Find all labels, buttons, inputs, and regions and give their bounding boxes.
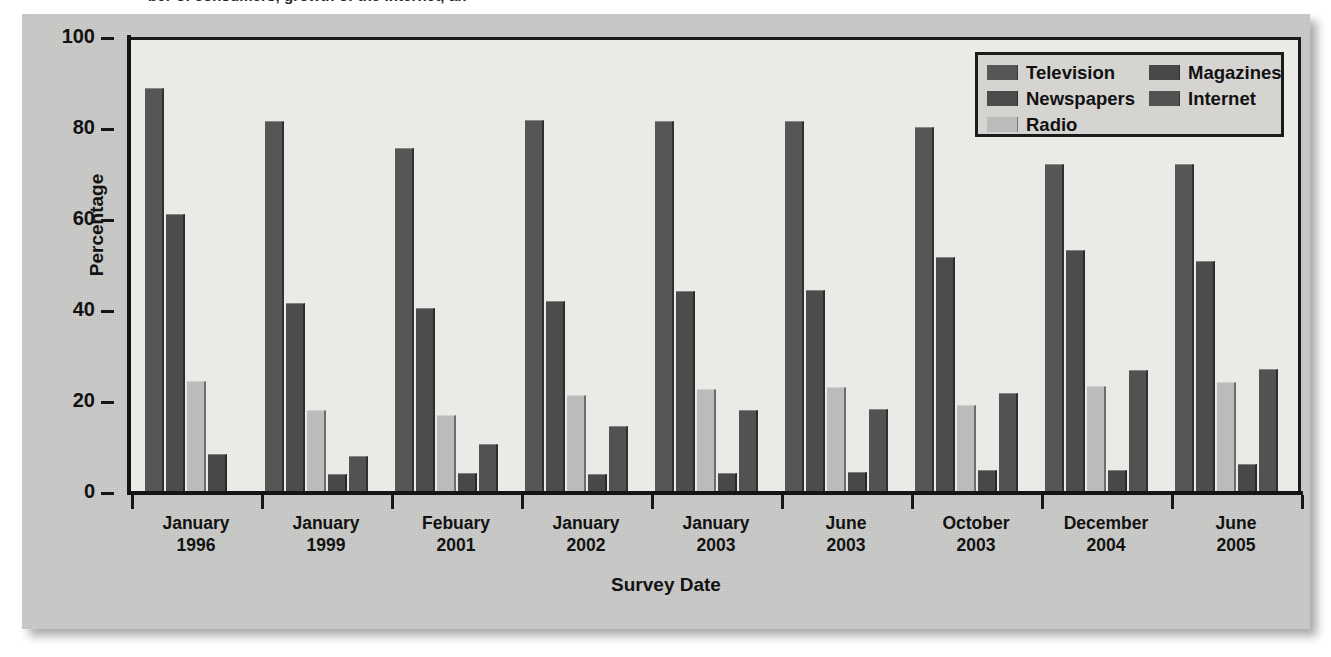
legend-swatch-magazines xyxy=(1149,65,1180,80)
bar-face xyxy=(739,410,758,492)
bar-face xyxy=(349,456,368,492)
bar-television-6 xyxy=(915,127,934,492)
x-axis-title: Survey Date xyxy=(22,574,1310,596)
legend-item-internet: Internet xyxy=(1149,86,1282,111)
bar-television-8 xyxy=(1175,164,1194,492)
bar-internet-7 xyxy=(1129,370,1148,492)
bar-face xyxy=(999,393,1018,492)
bar-radio-4 xyxy=(697,389,716,492)
x-axis-label-line: January xyxy=(121,512,271,534)
bar-radio-3 xyxy=(567,395,586,492)
bar-internet-2 xyxy=(479,444,498,492)
bar-newspapers-8 xyxy=(1196,261,1215,492)
bar-radio-1 xyxy=(307,410,326,492)
bar-internet-1 xyxy=(349,456,368,492)
bar-face xyxy=(1129,370,1148,492)
bar-newspapers-6 xyxy=(936,257,955,492)
x-axis-label-line: June xyxy=(1161,512,1311,534)
bar-face xyxy=(869,409,888,492)
legend-label-radio: Radio xyxy=(1026,114,1077,136)
bar-face xyxy=(697,389,716,492)
bar-television-1 xyxy=(265,121,284,492)
y-tick-mark xyxy=(101,492,114,495)
bar-face xyxy=(1238,464,1257,492)
bar-internet-6 xyxy=(999,393,1018,492)
bar-newspapers-3 xyxy=(546,301,565,492)
bar-magazines-5 xyxy=(848,472,867,492)
bar-face xyxy=(827,387,846,492)
legend-label-newspapers: Newspapers xyxy=(1026,88,1135,110)
x-axis-label-line: January xyxy=(641,512,791,534)
bar-internet-3 xyxy=(609,426,628,492)
legend-column-left: TelevisionNewspapersRadio xyxy=(987,60,1135,138)
bar-face xyxy=(1259,369,1278,492)
bar-radio-6 xyxy=(957,405,976,492)
x-axis-tick-5 xyxy=(781,495,784,509)
bar-face xyxy=(286,303,305,492)
x-axis-label-line: 2003 xyxy=(641,534,791,556)
x-axis-label-2: Febuary2001 xyxy=(381,512,531,557)
chart-legend: TelevisionNewspapersRadio MagazinesInter… xyxy=(975,52,1284,137)
y-tick-mark xyxy=(101,128,114,131)
x-axis-label-line: 2003 xyxy=(771,534,921,556)
x-axis-label-4: January2003 xyxy=(641,512,791,557)
bar-face xyxy=(479,444,498,492)
bar-face xyxy=(567,395,586,492)
bar-magazines-3 xyxy=(588,474,607,492)
bar-face xyxy=(1066,250,1085,492)
bar-face xyxy=(307,410,326,492)
x-axis-label-line: 2004 xyxy=(1031,534,1181,556)
bar-magazines-7 xyxy=(1108,470,1127,492)
y-tick-label: 20 xyxy=(73,389,95,412)
bar-newspapers-0 xyxy=(166,214,185,492)
bar-magazines-2 xyxy=(458,473,477,492)
legend-column-right: MagazinesInternet xyxy=(1149,60,1282,112)
x-axis-tick-8 xyxy=(1171,495,1174,509)
bar-internet-5 xyxy=(869,409,888,492)
y-axis-title: Percentage xyxy=(86,145,108,305)
x-axis-label-line: January xyxy=(511,512,661,534)
x-axis-line xyxy=(127,491,1303,495)
legend-swatch-internet xyxy=(1149,91,1180,106)
bar-face xyxy=(1175,164,1194,492)
bar-magazines-6 xyxy=(978,470,997,492)
chart-figure-card: 020406080100 Percentage January1996Janua… xyxy=(22,14,1310,629)
legend-label-magazines: Magazines xyxy=(1188,62,1282,84)
x-axis-tick-6 xyxy=(911,495,914,509)
bar-radio-0 xyxy=(187,381,206,492)
bar-radio-8 xyxy=(1217,382,1236,492)
bar-face xyxy=(1087,386,1106,492)
x-axis-label-line: 2005 xyxy=(1161,534,1311,556)
bar-face xyxy=(166,214,185,492)
bar-face xyxy=(525,120,544,492)
bar-face xyxy=(848,472,867,492)
legend-label-television: Television xyxy=(1026,62,1115,84)
x-axis-label-line: June xyxy=(771,512,921,534)
x-axis-tick-4 xyxy=(651,495,654,509)
x-axis-label-0: January1996 xyxy=(121,512,271,557)
y-tick-mark xyxy=(101,37,114,40)
bar-radio-7 xyxy=(1087,386,1106,492)
x-axis-tick-7 xyxy=(1041,495,1044,509)
bar-face xyxy=(1217,382,1236,492)
x-axis-label-5: June2003 xyxy=(771,512,921,557)
bar-newspapers-2 xyxy=(416,308,435,492)
legend-item-magazines: Magazines xyxy=(1149,60,1282,85)
bar-radio-5 xyxy=(827,387,846,492)
page-top-caption-text: ber of consumers, growth of the Internet… xyxy=(148,0,467,4)
bar-television-2 xyxy=(395,148,414,492)
y-tick-label: 0 xyxy=(84,480,95,503)
bar-face xyxy=(416,308,435,492)
x-axis-label-line: Febuary xyxy=(381,512,531,534)
x-axis-label-line: December xyxy=(1031,512,1181,534)
y-tick-mark xyxy=(101,310,114,313)
bar-face xyxy=(1196,261,1215,492)
bar-face xyxy=(609,426,628,492)
bar-newspapers-5 xyxy=(806,290,825,492)
x-axis-tick-1 xyxy=(261,495,264,509)
x-axis-label-line: October xyxy=(901,512,1051,534)
x-axis-label-7: December2004 xyxy=(1031,512,1181,557)
legend-swatch-newspapers xyxy=(987,91,1018,106)
bar-face xyxy=(1045,164,1064,492)
y-tick-label: 80 xyxy=(73,116,95,139)
